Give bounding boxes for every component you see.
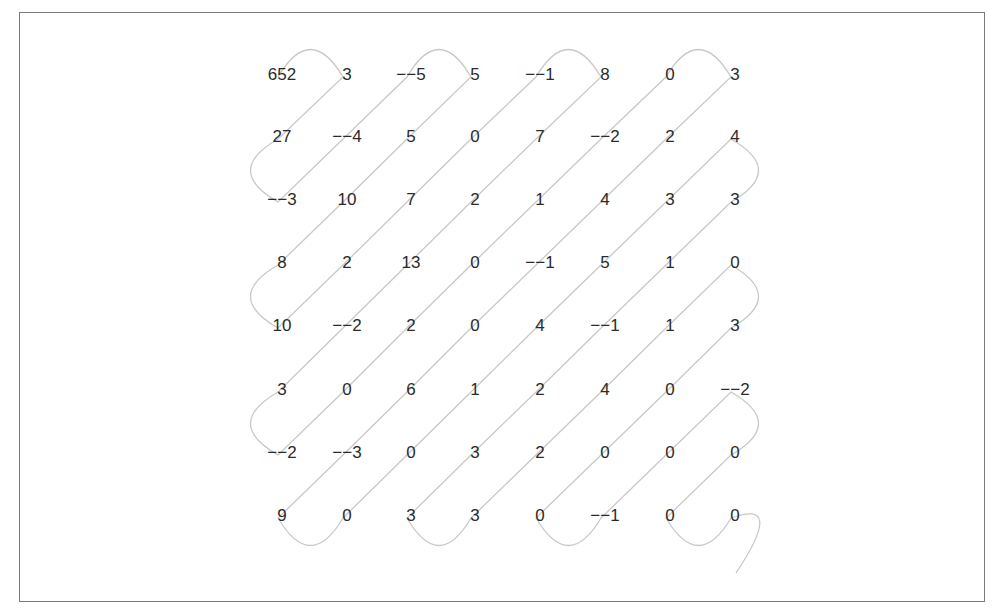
matrix-cell: 3 bbox=[640, 188, 700, 212]
matrix-cell: −−4 bbox=[317, 125, 377, 149]
matrix-cell: 4 bbox=[575, 188, 635, 212]
matrix-cell: 0 bbox=[640, 504, 700, 528]
matrix-cell: 652 bbox=[252, 63, 312, 87]
matrix-cell: 2 bbox=[510, 378, 570, 402]
matrix-cell: 0 bbox=[705, 251, 765, 275]
matrix-cell: 1 bbox=[640, 251, 700, 275]
matrix-cell: −−1 bbox=[575, 504, 635, 528]
matrix-cell: 4 bbox=[510, 314, 570, 338]
matrix-cell: 0 bbox=[575, 441, 635, 465]
matrix-cell: 13 bbox=[381, 251, 441, 275]
matrix-cell: 0 bbox=[445, 251, 505, 275]
matrix-cell: −−2 bbox=[705, 378, 765, 402]
matrix-cell: 4 bbox=[705, 125, 765, 149]
matrix-cell: 0 bbox=[445, 314, 505, 338]
matrix-cell: 2 bbox=[317, 251, 377, 275]
matrix-cell: 1 bbox=[510, 188, 570, 212]
matrix-cell: 0 bbox=[510, 504, 570, 528]
matrix-cell: 8 bbox=[252, 251, 312, 275]
matrix-cell: 9 bbox=[252, 504, 312, 528]
matrix-cell: −−1 bbox=[510, 63, 570, 87]
matrix-cell: 7 bbox=[510, 125, 570, 149]
matrix-cell: 2 bbox=[510, 441, 570, 465]
matrix-cell: 0 bbox=[640, 378, 700, 402]
matrix-cell: −−1 bbox=[575, 314, 635, 338]
matrix-cell: −−2 bbox=[575, 125, 635, 149]
matrix-cell: −−3 bbox=[317, 441, 377, 465]
matrix-cell: 6 bbox=[381, 378, 441, 402]
matrix-cell: 0 bbox=[445, 125, 505, 149]
matrix-cell: 27 bbox=[252, 125, 312, 149]
matrix-cell: 8 bbox=[575, 63, 635, 87]
matrix-cell: 3 bbox=[705, 314, 765, 338]
matrix-cell: 0 bbox=[381, 441, 441, 465]
matrix-cell: −−2 bbox=[317, 314, 377, 338]
matrix-cell: 3 bbox=[705, 188, 765, 212]
matrix-cell: 5 bbox=[381, 125, 441, 149]
matrix-cell: 1 bbox=[445, 378, 505, 402]
matrix-cell: 3 bbox=[445, 441, 505, 465]
matrix-cell: 0 bbox=[640, 63, 700, 87]
matrix-cell: 3 bbox=[381, 504, 441, 528]
matrix-cell: 3 bbox=[705, 63, 765, 87]
matrix-cell: −−2 bbox=[252, 441, 312, 465]
matrix-cell: 3 bbox=[252, 378, 312, 402]
matrix-cell: 0 bbox=[317, 378, 377, 402]
matrix-cell: −−5 bbox=[381, 63, 441, 87]
matrix-cell: 7 bbox=[381, 188, 441, 212]
matrix-cell: 2 bbox=[381, 314, 441, 338]
matrix-cell: 2 bbox=[445, 188, 505, 212]
matrix-cell: 0 bbox=[640, 441, 700, 465]
matrix-cell: −−3 bbox=[252, 188, 312, 212]
matrix-cell: 0 bbox=[705, 441, 765, 465]
matrix-cell: 3 bbox=[445, 504, 505, 528]
matrix-cell: 2 bbox=[640, 125, 700, 149]
matrix-cell: 3 bbox=[317, 63, 377, 87]
matrix-cell: 5 bbox=[575, 251, 635, 275]
matrix-cell: 0 bbox=[705, 504, 765, 528]
matrix-cell: 1 bbox=[640, 314, 700, 338]
matrix-cell: 10 bbox=[252, 314, 312, 338]
matrix-cell: 0 bbox=[317, 504, 377, 528]
matrix-cell: 4 bbox=[575, 378, 635, 402]
matrix-cell: 5 bbox=[445, 63, 505, 87]
matrix-cell: 10 bbox=[317, 188, 377, 212]
matrix-cell: −−1 bbox=[510, 251, 570, 275]
